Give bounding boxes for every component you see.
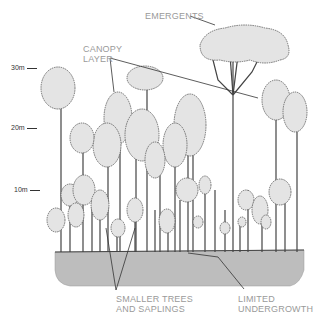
scale-30m: 30m (11, 64, 37, 71)
canopy-crown (283, 92, 307, 132)
label-canopy-layer: CANOPY LAYER (83, 44, 122, 64)
canopy-crown (163, 123, 187, 167)
small-crown (111, 219, 125, 237)
label-canopy-line2: LAYER (83, 54, 122, 64)
scale-10m-label: 10m (14, 186, 28, 193)
small-crown (91, 190, 109, 220)
small-crown (269, 179, 291, 205)
ground (55, 250, 304, 286)
small-crown (68, 203, 84, 227)
scale-tick (30, 190, 40, 191)
label-smaller-trees: SMALLER TREES AND SAPLINGS (116, 294, 193, 314)
small-crown (238, 217, 246, 227)
canopy-crown (127, 66, 163, 90)
small-crown (220, 222, 230, 234)
label-undergrowth-line2: UNDERGROWTH (238, 304, 313, 314)
small-crown (238, 190, 254, 210)
scale-20m: 20m (11, 124, 37, 131)
small-crown (261, 215, 271, 229)
canopy-crown (41, 67, 75, 109)
label-smaller-line2: AND SAPLINGS (116, 304, 193, 314)
scale-10m: 10m (14, 186, 40, 193)
small-crown (193, 216, 203, 228)
canopy-crown (145, 142, 165, 178)
label-undergrowth-line1: LIMITED (238, 294, 313, 304)
label-emergents: EMERGENTS (145, 11, 204, 21)
small-crown (176, 178, 198, 202)
forest-diagram (0, 0, 316, 317)
scale-30m-label: 30m (11, 64, 25, 71)
label-smaller-line1: SMALLER TREES (116, 294, 193, 304)
label-undergrowth: LIMITED UNDERGROWTH (238, 294, 313, 314)
scale-20m-label: 20m (11, 124, 25, 131)
small-crown (47, 208, 65, 232)
small-crown (159, 209, 175, 233)
emergent-crown (200, 25, 289, 63)
canopy-crown (70, 123, 94, 153)
small-crown (199, 176, 211, 194)
scale-tick (27, 68, 37, 69)
scale-tick (27, 128, 37, 129)
label-canopy-line1: CANOPY (83, 44, 122, 54)
canopy-crown (93, 123, 121, 167)
small-crown (127, 198, 143, 222)
crowns (41, 25, 307, 237)
